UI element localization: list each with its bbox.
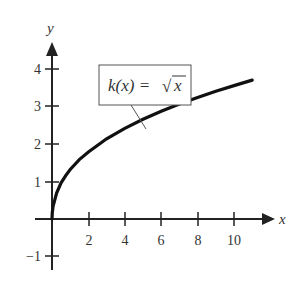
formula-label: k(x) =: [108, 76, 150, 95]
y-tick-label: 2: [34, 137, 41, 152]
x-axis-label: x: [278, 211, 286, 227]
formula-arg: x: [173, 76, 182, 95]
x-tick-label: 6: [158, 233, 165, 248]
chart: x y 2 4 6 8 10 −1 1 2 3 4 k(x) = √ x: [0, 0, 287, 285]
x-axis-arrow-icon: [262, 213, 275, 225]
y-tick-label: 1: [34, 175, 41, 190]
x-tick-label: 10: [227, 233, 241, 248]
y-tick-label: −1: [26, 249, 41, 264]
x-tick-label: 4: [122, 233, 129, 248]
y-tick-label: 3: [34, 99, 41, 114]
y-axis-label: y: [45, 20, 54, 36]
formula-radical-icon: √: [162, 77, 172, 96]
x-tick-label: 8: [195, 233, 202, 248]
x-tick-label: 2: [86, 233, 93, 248]
y-axis-arrow-icon: [46, 42, 58, 56]
y-tick-label: 4: [34, 62, 41, 77]
